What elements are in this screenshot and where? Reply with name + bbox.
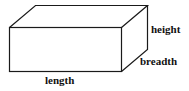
front-face xyxy=(10,28,122,72)
cuboid-diagram: height breadth length xyxy=(0,0,189,91)
breadth-label: breadth xyxy=(140,55,177,67)
top-face-edges xyxy=(10,6,148,28)
length-label: length xyxy=(45,74,74,86)
height-label: height xyxy=(151,23,181,35)
cuboid-shape xyxy=(10,6,148,72)
